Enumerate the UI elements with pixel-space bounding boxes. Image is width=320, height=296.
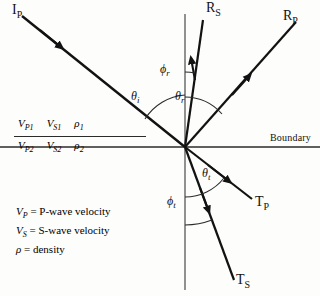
- medium-lower-properties: VP2 VS2 ρ2: [14, 138, 146, 157]
- legend-item-rho: ρ = density: [16, 242, 111, 261]
- angle-reflection-s-label: ϕr: [160, 62, 170, 78]
- legend-item-vs: VS = S-wave velocity: [16, 223, 111, 242]
- upper-vs: VS1: [47, 116, 62, 135]
- medium-upper-properties: VP1 VS1 ρ1: [14, 116, 146, 135]
- lower-vs: VS2: [47, 138, 62, 157]
- reflected-p-label: RP: [283, 8, 298, 26]
- boundary-label: Boundary: [270, 132, 311, 143]
- upper-vp: VP1: [18, 116, 34, 135]
- reflected-p-ray-arrow: [232, 75, 250, 95]
- legend-item-vp: VP = P-wave velocity: [16, 204, 111, 223]
- lower-vp: VP2: [18, 138, 34, 157]
- angle-incidence-label: θi: [131, 89, 139, 105]
- symbol-legend: VP = P-wave velocity VS = S-wave velocit…: [16, 204, 111, 262]
- reflected-s-ray: [185, 20, 203, 147]
- wave-boundary-diagram: IP RS RP TP TS θi θr ϕr θt ϕt Boundary V…: [0, 0, 320, 296]
- angle-reflection-p-label: θr: [175, 89, 184, 105]
- transmitted-p-ray-arrow: [208, 165, 230, 182]
- reflected-s-ray-arrow: [191, 58, 195, 80]
- angle-arc-transmission-s: [185, 220, 212, 225]
- medium-properties: VP1 VS1 ρ1 VP2 VS2 ρ2: [14, 116, 146, 157]
- medium-divider: [14, 136, 146, 137]
- upper-rho: ρ1: [74, 116, 83, 135]
- transmitted-s-label: TS: [236, 272, 250, 290]
- incident-p-ray-arrow: [40, 30, 62, 48]
- lower-rho: ρ2: [74, 138, 83, 157]
- incident-p-label: IP: [12, 2, 22, 20]
- reflected-s-label: RS: [206, 0, 221, 18]
- angle-transmission-s-label: ϕt: [167, 194, 176, 210]
- transmitted-p-label: TP: [255, 194, 269, 212]
- angle-transmission-p-label: θt: [202, 166, 210, 182]
